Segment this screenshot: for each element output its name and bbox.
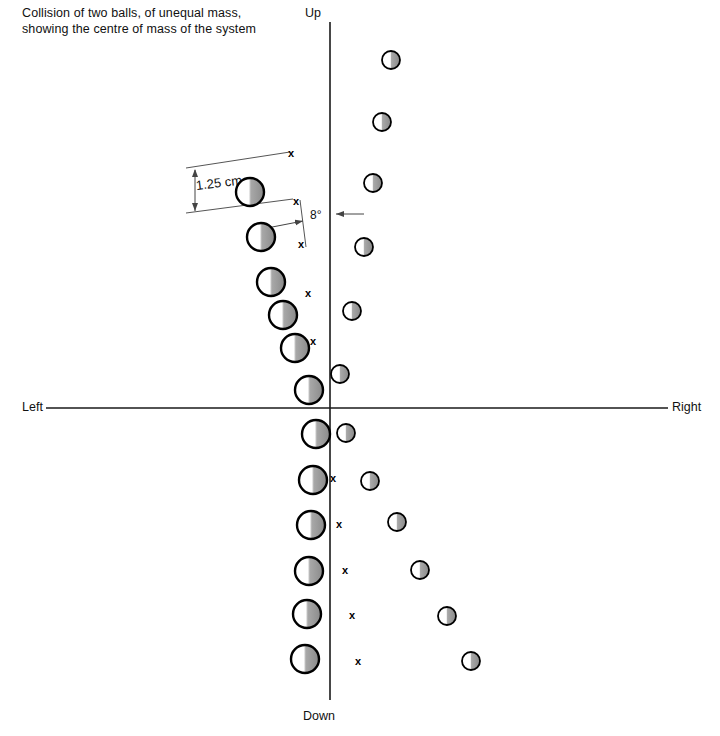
small-ball-marker — [355, 238, 373, 256]
centre-of-mass-marker: x — [305, 287, 312, 299]
centre-of-mass-marker: x — [336, 518, 343, 530]
small-ball-marker — [388, 513, 406, 531]
centre-of-mass-marks-layer: xxxxxxxxxx — [288, 147, 362, 667]
large-ball-marker — [236, 178, 264, 206]
large-ball-marker — [297, 511, 325, 539]
scale-leader-upper — [186, 152, 290, 168]
small-ball-marker — [343, 302, 361, 320]
angle-annotation-group — [262, 200, 364, 247]
small-ball-marker — [337, 424, 355, 442]
large-ball-marker — [281, 334, 309, 362]
centre-of-mass-marker: x — [310, 335, 317, 347]
large-ball-marker — [293, 600, 321, 628]
figure-canvas: Collision of two balls, of unequal mass,… — [0, 0, 720, 736]
large-ball-marker — [291, 645, 319, 673]
small-ball-marker — [373, 113, 391, 131]
large-ball-marker — [295, 557, 323, 585]
small-ball-marker — [462, 652, 480, 670]
large-ball-marker — [299, 466, 327, 494]
centre-of-mass-marker: x — [355, 655, 362, 667]
centre-of-mass-marker: x — [288, 147, 295, 159]
small-ball-marker — [331, 365, 349, 383]
large-ball-marker — [269, 301, 297, 329]
large-ball-marker — [302, 420, 330, 448]
large-ball-layer — [236, 178, 330, 673]
centre-of-mass-marker: x — [298, 238, 305, 250]
small-ball-layer — [331, 51, 480, 670]
collision-diagram: xxxxxxxxxx — [0, 0, 720, 736]
centre-of-mass-marker: x — [330, 472, 337, 484]
centre-of-mass-marker: x — [349, 609, 356, 621]
large-ball-marker — [247, 223, 275, 251]
centre-of-mass-marker: x — [342, 564, 349, 576]
small-ball-marker — [438, 607, 456, 625]
small-ball-marker — [411, 561, 429, 579]
small-ball-marker — [382, 51, 400, 69]
axes-group — [46, 22, 668, 700]
small-ball-marker — [364, 174, 382, 192]
large-ball-marker — [295, 376, 323, 404]
large-ball-marker — [257, 268, 285, 296]
small-ball-marker — [361, 472, 379, 490]
centre-of-mass-marker: x — [293, 195, 300, 207]
